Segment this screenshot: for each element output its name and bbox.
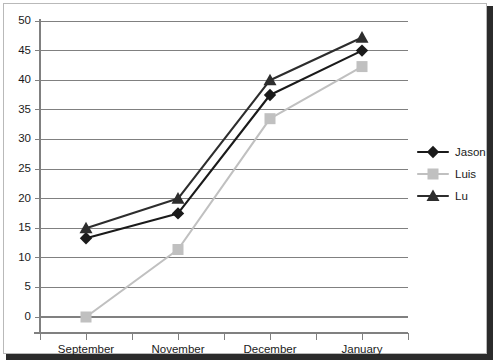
data-point-marker: [81, 312, 92, 323]
y-axis-tick-label: 45: [5, 45, 31, 56]
y-axis-tick-label: 10: [5, 252, 31, 263]
data-point-marker: [356, 31, 369, 43]
legend-item-label: Jason: [455, 146, 486, 158]
legend-marker: [427, 146, 439, 158]
data-series-group: [80, 31, 369, 322]
y-axis-tick-label: 50: [5, 15, 31, 26]
y-axis-tick-label: 25: [5, 163, 31, 174]
data-point-marker: [173, 244, 184, 255]
chart-figure: 05101520253035404550 SeptemberNovemberDe…: [0, 0, 496, 363]
line-chart-plot: [0, 0, 496, 363]
y-axis-tick-label: 5: [5, 281, 31, 292]
y-axis-tick-label: 0: [5, 311, 31, 322]
data-point-marker: [264, 74, 277, 86]
y-axis-tick-label: 30: [5, 133, 31, 144]
legend-item-label: Lu: [455, 190, 468, 202]
y-axis-tick-label: 15: [5, 222, 31, 233]
gridlines: [40, 21, 408, 317]
data-point-marker: [357, 61, 368, 72]
legend-item-label: Luis: [455, 168, 476, 180]
x-axis-tick-label: September: [40, 343, 132, 355]
data-point-marker: [356, 44, 368, 56]
data-point-marker: [265, 113, 276, 124]
y-axis-tick-label: 20: [5, 193, 31, 204]
y-axis-tick-label: 35: [5, 104, 31, 115]
x-axis-tick-label: January: [316, 343, 408, 355]
legend-marker: [428, 169, 439, 180]
x-axis-ticks: [40, 333, 408, 340]
y-axis-tick-label: 40: [5, 74, 31, 85]
legend-marks: [418, 146, 448, 201]
data-point-marker: [80, 232, 92, 244]
x-axis-tick-label: November: [132, 343, 224, 355]
x-axis-tick-label: December: [224, 343, 316, 355]
y-axis-ticks: [35, 21, 40, 317]
